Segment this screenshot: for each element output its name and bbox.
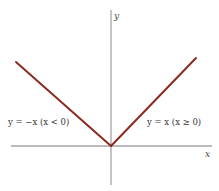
left-branch-label: y = −x (x < 0) bbox=[7, 117, 69, 127]
absolute-value-graph: y x y = −x (x < 0) y = x (x ≥ 0) bbox=[0, 0, 219, 191]
right-branch-label: y = x (x ≥ 0) bbox=[146, 117, 201, 127]
curve-right-branch bbox=[111, 58, 196, 146]
y-axis-label: y bbox=[113, 11, 120, 21]
x-axis-label: x bbox=[205, 149, 210, 159]
curve-left-branch bbox=[16, 62, 111, 146]
